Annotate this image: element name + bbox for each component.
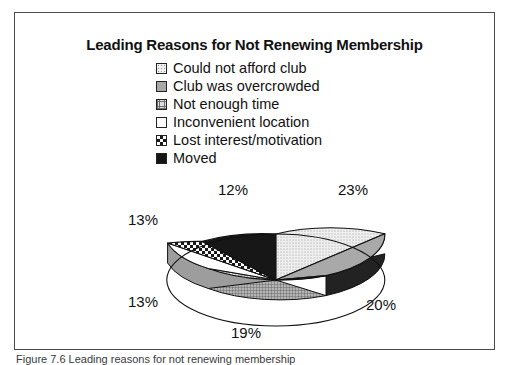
black-swatch bbox=[156, 153, 167, 164]
pie-chart-graphic bbox=[148, 179, 408, 344]
legend-item-label: Not enough time bbox=[173, 95, 279, 113]
pie-label-could-not-afford-club: 23% bbox=[338, 181, 368, 198]
pie-label-lost-interest-motivation: 13% bbox=[128, 211, 158, 228]
pie-label-club-was-overcrowded: 20% bbox=[366, 296, 396, 313]
legend-item-could-not-afford-club: Could not afford club bbox=[156, 59, 436, 77]
solid-gray-swatch bbox=[156, 81, 167, 92]
legend-item-label: Inconvenient location bbox=[173, 113, 309, 131]
light-dotted-swatch bbox=[156, 63, 167, 74]
white-swatch bbox=[156, 117, 167, 128]
pie-label-moved: 12% bbox=[218, 181, 248, 198]
legend-item-label: Could not afford club bbox=[173, 59, 307, 77]
legend-item-not-enough-time: Not enough time bbox=[156, 95, 436, 113]
pie-chart bbox=[148, 179, 408, 344]
checkerboard-swatch bbox=[156, 135, 167, 146]
legend-item-inconvenient-location: Inconvenient location bbox=[156, 113, 436, 131]
legend-item-label: Lost interest/motivation bbox=[173, 131, 322, 149]
pie-label-inconvenient-location: 13% bbox=[128, 293, 158, 310]
chart-frame: Leading Reasons for Not Renewing Members… bbox=[14, 12, 495, 350]
crosshatch-swatch bbox=[156, 99, 167, 110]
legend-item-label: Moved bbox=[173, 149, 217, 167]
legend-item-label: Club was overcrowded bbox=[173, 77, 320, 95]
chart-title: Leading Reasons for Not Renewing Members… bbox=[15, 36, 494, 53]
legend-item-club-was-overcrowded: Club was overcrowded bbox=[156, 77, 436, 95]
legend-item-moved: Moved bbox=[156, 149, 436, 167]
chart-legend: Could not afford club Club was overcrowd… bbox=[156, 59, 436, 167]
legend-item-lost-interest-motivation: Lost interest/motivation bbox=[156, 131, 436, 149]
figure-caption: Figure 7.6 Leading reasons for not renew… bbox=[16, 353, 295, 365]
pie-label-not-enough-time: 19% bbox=[231, 324, 261, 341]
